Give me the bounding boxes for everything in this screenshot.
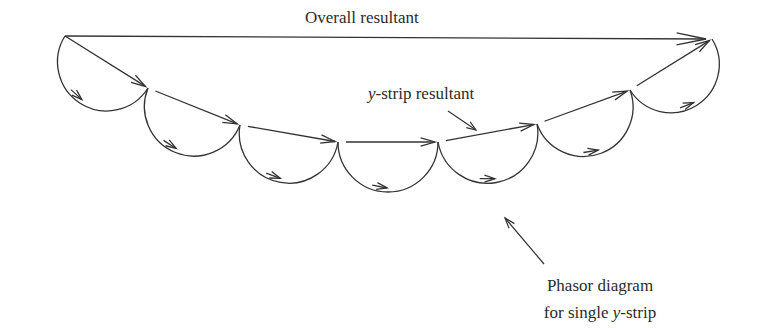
phasor-diagram-pointer <box>505 218 544 264</box>
strip-resultant-line <box>545 91 628 121</box>
strip-resultant-label: y-strip resultant <box>368 85 474 102</box>
label-pointer-arrows <box>448 111 544 264</box>
strip-semicircle <box>338 142 438 192</box>
strip-resultant-arrowhead-icon <box>695 41 709 52</box>
strip-resultant-line <box>155 91 237 124</box>
strip-resultant-line <box>446 125 534 141</box>
strip-semicircle <box>58 36 148 111</box>
phasor-label-line1: Phasor diagram <box>520 272 680 299</box>
overall-resultant-line <box>65 36 706 39</box>
strip-phasor-arcs <box>58 36 720 192</box>
strip-resultant-line <box>65 36 145 86</box>
overall-resultant-text: Overall resultant <box>305 8 419 27</box>
strip-resultant-text: -strip resultant <box>376 84 475 103</box>
phasor-diagram-label: Phasor diagram for single y-strip <box>520 272 680 326</box>
strip-resultant-line <box>637 41 710 86</box>
pointer-arrowhead-icon <box>466 122 476 130</box>
phasor-label-line2-suffix: -strip <box>620 303 656 322</box>
strip-semicircle <box>537 90 633 157</box>
strip-resultant-arrowhead-icon <box>131 75 145 86</box>
phasor-label-line2: for single y-strip <box>520 299 680 326</box>
strip-resultant-pointer <box>448 111 476 130</box>
phasor-label-line2-prefix: for single <box>544 303 613 322</box>
strip-variable: y <box>368 84 376 103</box>
strip-semicircle <box>630 39 719 113</box>
overall-resultant-arrow <box>65 33 706 45</box>
strip-resultant-line <box>248 126 335 141</box>
phasor-arrowhead-icon <box>165 140 176 149</box>
overall-resultant-label: Overall resultant <box>305 9 419 26</box>
